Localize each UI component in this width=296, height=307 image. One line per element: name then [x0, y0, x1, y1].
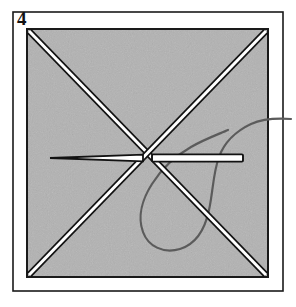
step-number-label: 4 — [17, 9, 27, 28]
figure-container: 4 — [0, 0, 296, 307]
step-diagram-svg — [0, 0, 296, 307]
bar-right — [152, 154, 243, 161]
